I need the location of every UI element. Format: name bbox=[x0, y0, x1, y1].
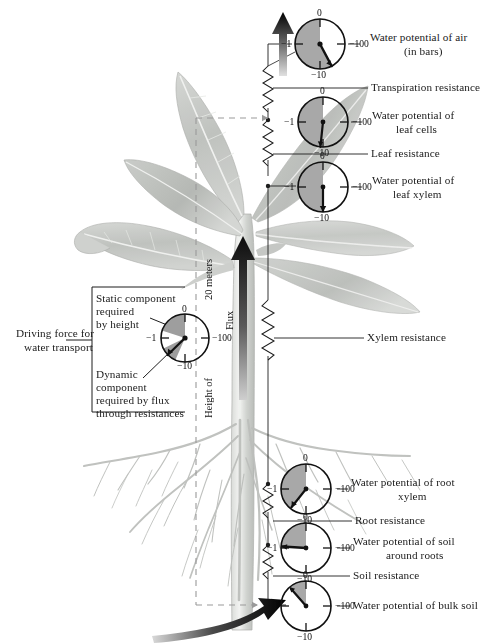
label-driving-force-line1: Driving force for bbox=[16, 327, 94, 340]
label-soil-around-roots-line1: Water potential of soil bbox=[353, 535, 455, 548]
gauge-leaf-cells-tick-top: 0 bbox=[320, 85, 325, 96]
gauge-soil-roots-tick-left: −1 bbox=[267, 542, 277, 553]
label-leaf-cells-line2: leaf cells bbox=[396, 123, 437, 136]
gauge-driving-tick-right: −100 bbox=[212, 332, 232, 343]
gauge-bulk-soil-tick-left: −1 bbox=[267, 600, 277, 611]
height-arrow-head bbox=[252, 602, 258, 608]
label-transpiration-resistance: Transpiration resistance bbox=[371, 81, 480, 94]
gauge-air-tick-right: −100 bbox=[349, 38, 369, 49]
label-dynamic-component-line4: through resistances bbox=[96, 407, 184, 420]
label-leaf-resistance: Leaf resistance bbox=[371, 147, 440, 160]
circuit-network bbox=[262, 44, 296, 607]
gauge-root-xylem-tick-left: −1 bbox=[267, 483, 277, 494]
gauge-leaf-xylem-tick-left: −1 bbox=[284, 181, 294, 192]
label-static-component-line2: required bbox=[96, 305, 134, 318]
label-water-potential-air-units: (in bars) bbox=[404, 45, 443, 58]
label-static-component-line3: by height bbox=[96, 318, 139, 331]
label-soil-around-roots-line2: around roots bbox=[386, 549, 443, 562]
gauge-bulk-soil-tick-right: −100 bbox=[335, 600, 355, 611]
gauge-air-tick-left: −1 bbox=[281, 38, 291, 49]
gauge-air bbox=[295, 19, 345, 69]
gauge-driving-tick-top: 0 bbox=[182, 303, 187, 314]
label-root-xylem-line1: Water potential of root bbox=[351, 476, 455, 489]
gauge-leaf-cells bbox=[298, 97, 348, 147]
gauge-leaf-xylem-tick-top: 0 bbox=[320, 150, 325, 161]
label-static-component-line1: Static component bbox=[96, 292, 176, 305]
label-bulk-soil: Water potential of bulk soil bbox=[353, 599, 478, 612]
label-leaf-xylem-line1: Water potential of bbox=[372, 174, 454, 187]
gauge-bulk-soil bbox=[281, 581, 331, 631]
label-flux: Flux bbox=[224, 311, 235, 330]
gauge-driving-tick-bottom: −10 bbox=[177, 360, 192, 371]
gauge-root-xylem-tick-top: 0 bbox=[303, 452, 308, 463]
figure-canvas: Water potential of air (in bars) 0 −1 −1… bbox=[0, 0, 489, 643]
label-leaf-xylem-line2: leaf xylem bbox=[393, 188, 442, 201]
gauge-soil-around-roots bbox=[281, 523, 331, 573]
gauge-leaf-xylem-tick-right: −100 bbox=[352, 181, 372, 192]
gauge-air-tick-top: 0 bbox=[317, 7, 322, 18]
gauge-driving-tick-left: −1 bbox=[146, 332, 156, 343]
label-leaf-cells-line1: Water potential of bbox=[372, 109, 454, 122]
gauge-leaf-xylem-tick-bottom: −10 bbox=[314, 212, 329, 223]
label-driving-force-line2: water transport bbox=[24, 341, 93, 354]
label-height-meters: 20 meters bbox=[203, 259, 214, 300]
gauge-bulk-soil-tick-bottom: −10 bbox=[297, 631, 312, 642]
label-root-xylem-line2: xylem bbox=[398, 490, 426, 503]
label-water-potential-air: Water potential of air bbox=[370, 31, 467, 44]
gauge-bulk-soil-tick-top: 0 bbox=[303, 569, 308, 580]
label-dynamic-component-line2: component bbox=[96, 381, 147, 394]
label-root-resistance: Root resistance bbox=[355, 514, 425, 527]
gauge-root-xylem bbox=[281, 464, 331, 514]
label-soil-resistance: Soil resistance bbox=[353, 569, 419, 582]
gauge-root-xylem-tick-right: −100 bbox=[335, 483, 355, 494]
gauge-leaf-cells-tick-right: −100 bbox=[352, 116, 372, 127]
label-dynamic-component-line3: required by flux bbox=[96, 394, 170, 407]
label-dynamic-component-line1: Dynamic bbox=[96, 368, 138, 381]
label-xylem-resistance: Xylem resistance bbox=[367, 331, 446, 344]
gauge-leaf-xylem bbox=[298, 162, 348, 212]
gauge-soil-roots-tick-top: 0 bbox=[303, 511, 308, 522]
gauge-driving-force bbox=[161, 314, 209, 362]
gauge-soil-roots-tick-right: −100 bbox=[335, 542, 355, 553]
label-height-of: Height of bbox=[203, 378, 214, 418]
gauge-air-tick-bottom: −10 bbox=[311, 69, 326, 80]
gauge-leaf-cells-tick-left: −1 bbox=[284, 116, 294, 127]
